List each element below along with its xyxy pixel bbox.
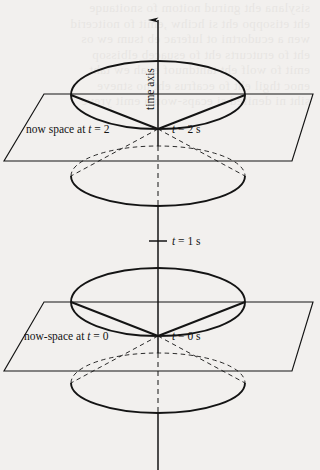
past-cone-t-0-generator-right — [158, 336, 245, 383]
event-t-2-label: t = 2 s — [172, 123, 201, 135]
now-space-t-0-label: now-space at t = 0 — [24, 330, 109, 343]
event-t-0-label: t = 0 s — [172, 330, 201, 342]
now-space-t-2-label: now space at t = 2 — [26, 123, 110, 136]
time-axis-label: time axis — [144, 68, 156, 110]
now-space-t-0-label-prefix: now-space at — [24, 330, 87, 343]
light-cone-spacetime-diagram: time axis now space at t = 2 t = 2 s t =… — [0, 0, 320, 470]
event-t-0-label-value: = 0 s — [175, 330, 201, 342]
event-t-2-label-value: = 2 s — [175, 123, 201, 135]
now-space-t-0-label-value: = 0 — [90, 330, 108, 342]
past-cone-t-2-generator-right — [158, 129, 245, 176]
tick-t-1-label-value: = 1 s — [175, 235, 201, 247]
tick-t-1-label: t = 1 s — [172, 235, 201, 247]
now-space-t-2-label-value: = 2 — [91, 123, 109, 135]
now-space-t-2-label-prefix: now space at — [26, 123, 88, 136]
past-cone-t-0-generator-left — [71, 336, 158, 383]
past-cone-t-2-generator-left — [71, 129, 158, 176]
